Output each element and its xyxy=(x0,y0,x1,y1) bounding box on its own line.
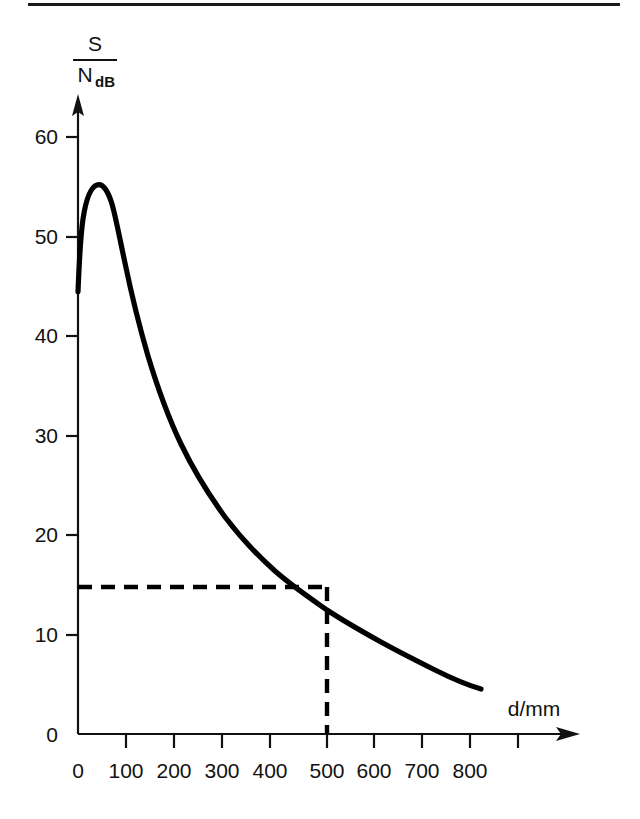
x-axis-ticks xyxy=(126,734,518,748)
x-tick-label-200: 200 xyxy=(156,759,191,782)
y-tick-label-20: 20 xyxy=(35,523,58,546)
y-tick-label-50: 50 xyxy=(35,225,58,248)
y-tick-label-10: 10 xyxy=(35,623,58,646)
y-tick-label-60: 60 xyxy=(35,125,58,148)
y-axis-label-subscript: dB xyxy=(95,73,115,90)
x-tick-label-800: 800 xyxy=(452,759,487,782)
chart-figure: 60 50 40 30 20 10 0 0 100 200 300 400 50… xyxy=(0,0,640,819)
y-axis-label-denominator: N xyxy=(77,63,92,86)
x-tick-label-500: 500 xyxy=(309,759,344,782)
x-tick-label-600: 600 xyxy=(356,759,391,782)
y-axis-label-group: S N dB xyxy=(73,32,117,90)
x-tick-label-400: 400 xyxy=(252,759,287,782)
y-tick-label-40: 40 xyxy=(35,324,58,347)
y-axis-ticks xyxy=(66,137,78,635)
x-tick-label-700: 700 xyxy=(404,759,439,782)
x-axis-label: d/mm xyxy=(508,697,561,720)
chart-canvas: 60 50 40 30 20 10 0 0 100 200 300 400 50… xyxy=(0,0,640,819)
x-tick-label-300: 300 xyxy=(204,759,239,782)
x-tick-label-100: 100 xyxy=(108,759,143,782)
y-axis-label-numerator: S xyxy=(88,32,102,55)
x-tick-label-0: 0 xyxy=(72,759,84,782)
y-tick-label-0: 0 xyxy=(46,723,58,746)
signal-to-noise-curve xyxy=(78,185,481,689)
y-tick-label-30: 30 xyxy=(35,424,58,447)
